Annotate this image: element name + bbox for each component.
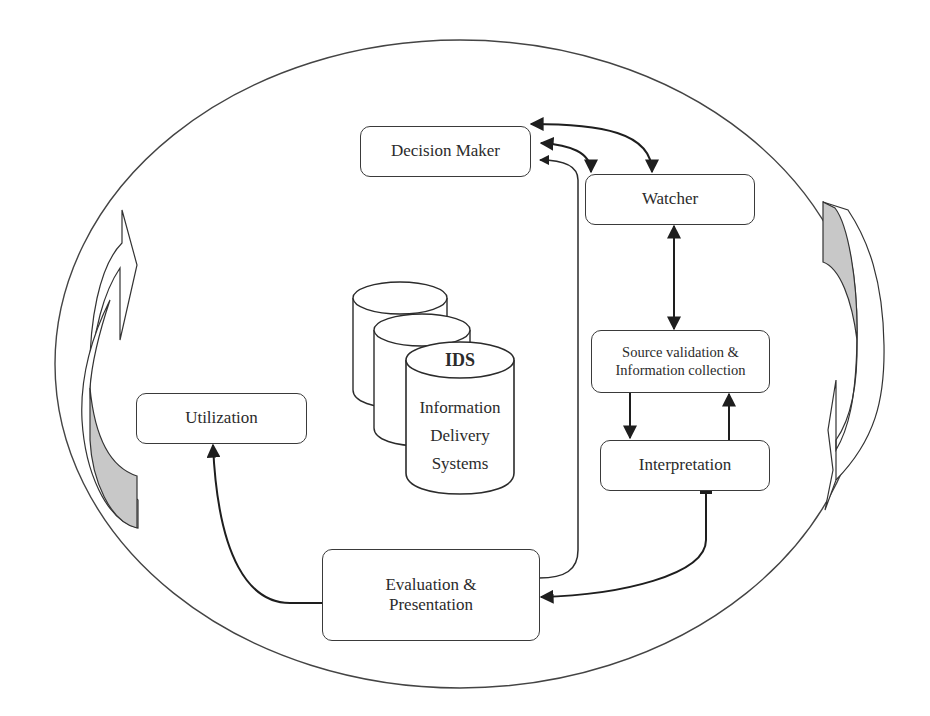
- interpretation-label: Interpretation: [639, 455, 732, 475]
- right-cycle-arrow-icon: [823, 202, 884, 510]
- source-validation-node: Source validation & Information collecti…: [591, 330, 770, 393]
- watcher-node: Watcher: [585, 174, 755, 225]
- ids-title: IDS: [406, 349, 514, 372]
- ids-label-line2: Delivery: [400, 425, 520, 447]
- source-validation-label-line1: Source validation &: [622, 344, 739, 361]
- decision-maker-label: Decision Maker: [391, 141, 500, 161]
- arrow-decision-watcher-inner: [541, 143, 591, 172]
- arrow-evaluation-to-utilization: [213, 445, 322, 603]
- arrow-decision-watcher-outer: [531, 124, 652, 172]
- evaluation-presentation-node: Evaluation & Presentation: [322, 549, 540, 641]
- evaluation-label-line2: Presentation: [389, 595, 473, 615]
- source-validation-label-line2: Information collection: [615, 362, 745, 379]
- decision-maker-node: Decision Maker: [360, 126, 531, 177]
- left-cycle-arrow-icon: [82, 210, 138, 528]
- evaluation-label-line1: Evaluation &: [385, 575, 476, 595]
- utilization-label: Utilization: [185, 408, 258, 428]
- diagram-canvas: Decision Maker Watcher Source validation…: [0, 0, 930, 716]
- arrow-evaluation-to-decision: [539, 160, 578, 578]
- interpretation-node: Interpretation: [600, 440, 770, 491]
- utilization-node: Utilization: [136, 393, 307, 444]
- ids-label-line1: Information: [400, 397, 520, 419]
- ids-label-line3: Systems: [400, 453, 520, 475]
- watcher-label: Watcher: [642, 189, 698, 209]
- arrow-interpretation-to-evaluation: [541, 492, 706, 597]
